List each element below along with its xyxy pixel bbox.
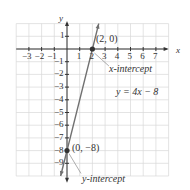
y-tick-label: −7 [54,133,64,142]
y-tick-label: −6 [54,120,64,129]
x-tick-label: 5 [128,52,133,61]
y-tick-label: −2 [54,69,64,78]
y-tick-label: −3 [54,82,64,91]
x-tick-label: 7 [153,52,158,61]
y-intercept-point-label: (0, −8) [72,143,99,153]
x-axis-label: x [176,46,180,55]
y-tick-label: −9 [54,158,64,167]
y-axis-label: y [59,14,63,23]
x-tick-label: −3 [22,52,32,61]
y-tick-label: −5 [54,108,64,117]
intercept-point [64,148,69,153]
x-intercept-point-label: (2, 0) [96,34,118,44]
y-tick-label: 1 [60,31,65,40]
x-tick-label: 3 [102,52,107,61]
x-tick-label: 4 [115,52,120,61]
x-intercept-label: x-intercept [109,64,152,74]
x-tick-label: 2 [89,52,94,61]
coordinate-plane [0,0,190,190]
y-tick-label: −8 [54,146,64,155]
y-tick-label: −1 [54,57,64,66]
y-intercept-label: y-intercept [82,174,125,184]
x-tick-label: 6 [140,52,145,61]
x-tick-label: −2 [35,52,45,61]
y-tick-label: −4 [54,95,64,104]
equation-label: y = 4x − 8 [116,87,158,97]
x-tick-label: 1 [77,52,82,61]
